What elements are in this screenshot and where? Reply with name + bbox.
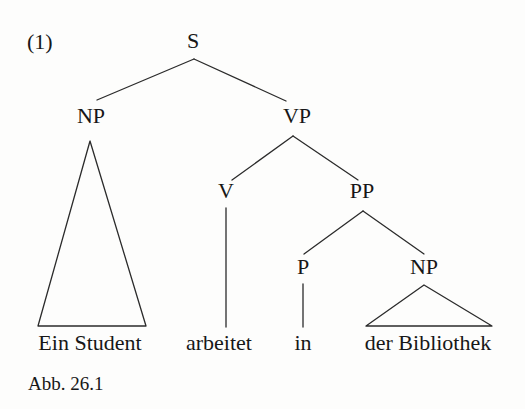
leaf-ein-student: Ein Student [38, 332, 141, 354]
triangle-np-der-bibliothek [366, 285, 492, 326]
example-number: (1) [27, 31, 53, 53]
triangle-np-ein-student [38, 141, 146, 326]
edge-pp-np2 [363, 211, 424, 254]
node-label-vp: VP [283, 105, 311, 127]
leaf-der-bibliothek: der Bibliothek [365, 332, 491, 354]
leaf-in: in [294, 332, 311, 354]
edge-s-vp [194, 59, 286, 101]
figure-caption: Abb. 26.1 [28, 374, 103, 393]
edge-pp-p [304, 211, 363, 254]
node-label-pp: PP [350, 180, 374, 202]
leaf-arbeitet: arbeitet [186, 332, 252, 354]
edge-vp-pp [293, 136, 358, 180]
node-label-v: V [218, 180, 234, 202]
edge-s-np1 [97, 59, 194, 100]
node-label-np1: NP [77, 105, 105, 127]
syntax-tree-figure: (1) S NP VP V PP P NP Ein Student arbeit… [0, 0, 525, 409]
node-label-np2: NP [410, 256, 438, 278]
node-label-s: S [187, 30, 199, 52]
edge-vp-v [232, 136, 293, 180]
node-label-p: P [297, 256, 309, 278]
